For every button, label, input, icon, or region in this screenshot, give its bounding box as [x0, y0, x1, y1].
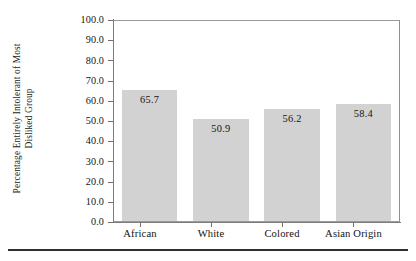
y-axis-title-line-1: Percentage Entirely Intolerant of Most	[12, 43, 22, 193]
y-tick-label-60: 60.0	[46, 96, 104, 106]
bar-value-african: 65.7	[122, 94, 178, 105]
y-tick-label-30: 30.0	[46, 157, 104, 167]
y-axis-title-text: Percentage Entirely Intolerant of Most D…	[11, 43, 36, 193]
x-category-label-asian-origin: Asian Origin	[306, 228, 401, 240]
bar-value-colored: 56.2	[264, 113, 320, 124]
y-tick-label-50: 50.0	[46, 116, 104, 126]
bar-value-asian-origin: 58.4	[336, 108, 392, 119]
y-axis-line	[113, 19, 114, 223]
footer-divider	[8, 249, 408, 251]
bar-chart-figure: Percentage Entirely Intolerant of Most D…	[0, 0, 416, 261]
x-tick-mark-african	[140, 222, 141, 227]
y-tick-label-70: 70.0	[46, 76, 104, 86]
x-tick-mark-white	[211, 222, 212, 227]
x-category-label-white: White	[171, 228, 251, 240]
x-tick-mark-asian-origin	[353, 222, 354, 227]
x-tick-mark-colored	[282, 222, 283, 227]
y-axis-tick-labels: 100.0 90.0 80.0 70.0 60.0 50.0 40.0 30.0…	[46, 0, 108, 261]
y-tick-label-0: 0.0	[46, 217, 104, 227]
x-axis-line	[113, 222, 401, 223]
y-axis-title-line-2: Disliked Group	[23, 43, 35, 193]
y-axis-title: Percentage Entirely Intolerant of Most D…	[0, 0, 46, 236]
y-tick-label-100: 100.0	[46, 15, 104, 25]
y-tick-label-80: 80.0	[46, 56, 104, 66]
y-tick-label-10: 10.0	[46, 197, 104, 207]
y-tick-label-90: 90.0	[46, 35, 104, 45]
plot-area: 65.7 50.9 56.2 58.4	[113, 20, 400, 222]
bar-white: 50.9	[193, 119, 249, 221]
bar-colored: 56.2	[264, 109, 320, 221]
bar-value-white: 50.9	[193, 123, 249, 134]
y-tick-label-40: 40.0	[46, 136, 104, 146]
bar-african: 65.7	[122, 90, 178, 221]
y-tick-label-20: 20.0	[46, 177, 104, 187]
x-category-label-african: African	[100, 228, 180, 240]
bar-asian-origin: 58.4	[336, 104, 392, 221]
